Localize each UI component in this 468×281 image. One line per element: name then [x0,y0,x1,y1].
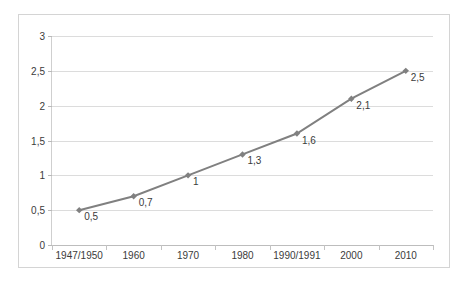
x-axis-category-label: 2010 [395,250,417,261]
x-axis-tick [270,245,271,250]
x-axis-line [51,245,434,246]
x-axis-tick [52,245,53,250]
data-point-marker [239,151,245,157]
data-point-marker [130,193,136,199]
x-axis-category-label: 1960 [123,250,145,261]
data-point-label: 2,5 [411,72,425,83]
x-axis-tick [433,245,434,250]
y-axis-tick-label: 1 [39,170,45,181]
data-point-label: 2,1 [356,100,370,111]
x-axis-tick [215,245,216,250]
chart-canvas: 00,511,522,53 1947/19501960197019801990/… [0,0,468,281]
plot-area: 00,511,522,53 1947/19501960197019801990/… [52,36,433,245]
y-axis-tick-label: 0,5 [31,205,45,216]
x-axis-tick [106,245,107,250]
data-point-label: 0,5 [84,211,98,222]
x-axis-category-label: 1947/1950 [56,250,103,261]
series-line [52,36,433,245]
x-axis-tick [161,245,162,250]
x-axis-tick [379,245,380,250]
y-axis-tick-label: 3 [39,31,45,42]
x-axis-category-label: 1990/1991 [273,250,320,261]
data-point-label: 1,6 [302,135,316,146]
data-point-label: 1,3 [248,155,262,166]
y-axis-tick-label: 1,5 [31,135,45,146]
y-axis-tick-label: 2,5 [31,65,45,76]
data-point-label: 1 [193,176,199,187]
x-axis-category-label: 2000 [340,250,362,261]
y-axis-tick-label: 0 [39,240,45,251]
x-axis-tick [324,245,325,250]
data-point-label: 0,7 [139,197,153,208]
x-axis-category-label: 1970 [177,250,199,261]
x-axis-category-label: 1980 [231,250,253,261]
data-point-marker [185,172,191,178]
data-point-marker [76,207,82,213]
series-polyline [79,71,406,210]
y-axis-tick-label: 2 [39,100,45,111]
